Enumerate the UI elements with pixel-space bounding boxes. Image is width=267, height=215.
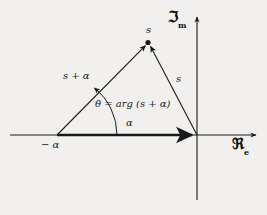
real-axis-label-sub: e [244, 147, 249, 157]
right-side-label: s [176, 74, 181, 84]
point-s-marker [145, 40, 150, 45]
apex-point-label: s [146, 25, 151, 35]
angle-equation-label: θ = arg (s + α) [95, 99, 171, 109]
baseline-label: α [126, 118, 133, 128]
complex-plane-diagram: ℑm ℜe s s s + α α − α θ = arg (s + α) [0, 0, 267, 215]
imaginary-axis-label-main: ℑ [168, 8, 178, 26]
real-axis-label: ℜe [232, 137, 249, 154]
angle-theta-arc [94, 88, 117, 135]
left-vertex-label: − α [41, 140, 59, 150]
imaginary-axis-label-sub: m [178, 20, 186, 30]
real-axis-label-main: ℜ [232, 135, 244, 153]
vector-s [151, 46, 197, 135]
imaginary-axis-label: ℑm [168, 10, 186, 27]
left-side-label: s + α [63, 71, 90, 81]
